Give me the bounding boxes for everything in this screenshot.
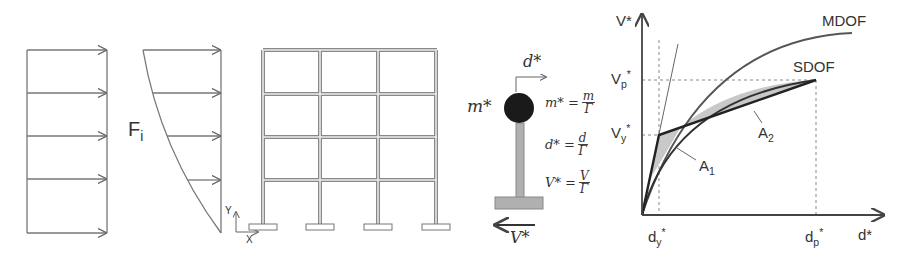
dy-label: dy*: [648, 226, 666, 248]
x-axis-label: X: [246, 234, 253, 245]
dp-label: dp*: [805, 226, 823, 248]
vy-label: Vy*: [611, 122, 630, 144]
building-frame-inner: [263, 50, 437, 224]
equation-shear: V* =VΓ: [545, 170, 590, 195]
fi-label: Fi: [128, 118, 143, 144]
uniform-load-panel: [27, 50, 107, 233]
mdof-label: MDOF: [822, 12, 866, 29]
sdof-label: SDOF: [793, 58, 835, 75]
y-axis-label: Y: [225, 205, 232, 216]
chart-y-axis-label: V*: [616, 12, 632, 29]
a2-label: A2: [758, 124, 774, 144]
chart-x-axis-label: d*: [858, 226, 872, 243]
triangular-load-panel: [143, 50, 221, 233]
vp-label: Vp*: [611, 68, 631, 90]
equation-displacement: d* =dΓ: [545, 132, 588, 157]
mass-label: m*: [467, 96, 492, 116]
footings: [249, 224, 450, 230]
displacement-label: d*: [523, 52, 541, 71]
a1-label: A1: [699, 157, 715, 177]
shear-label: V*: [510, 228, 530, 247]
sdof-model: [495, 77, 546, 225]
capacity-chart: [642, 14, 884, 215]
equation-mass: m* =mΓ: [545, 90, 595, 115]
